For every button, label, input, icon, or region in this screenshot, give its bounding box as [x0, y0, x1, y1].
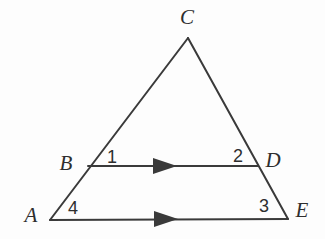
vertex-label-e: E: [296, 200, 309, 221]
side-CE-line: [188, 38, 288, 219]
angle-label-3: 3: [259, 197, 269, 215]
geometry-canvas: [0, 0, 325, 239]
vertex-label-a: A: [25, 205, 38, 226]
angle-label-2: 2: [233, 147, 243, 165]
vertex-label-c: C: [180, 7, 194, 28]
angle-label-1: 1: [107, 148, 117, 166]
triangle-sides: [50, 38, 288, 220]
geometry-figure: A B C D E 1 2 3 4: [0, 0, 325, 239]
parallel-arrow-marks: [153, 158, 178, 227]
arrowhead-icon-ae: [154, 211, 178, 227]
angle-label-4: 4: [68, 199, 78, 217]
arrowhead-icon-bd: [153, 158, 177, 174]
vertex-label-d: D: [265, 150, 280, 171]
vertex-label-b: B: [60, 153, 73, 174]
side-AC-line: [50, 38, 188, 220]
